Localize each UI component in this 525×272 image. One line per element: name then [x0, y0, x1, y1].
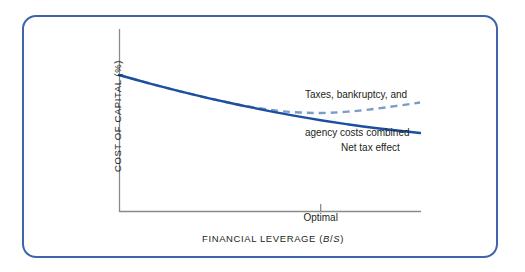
net-tax-effect-annotation: Net tax effect: [341, 142, 400, 153]
chart-figure: COST OF CAPITAL (%) FINANCIAL LEVERAGE (…: [0, 0, 525, 272]
x-axis-title: FINANCIAL LEVERAGE (B/S): [183, 233, 363, 244]
y-axis-title: COST OF CAPITAL (%): [112, 41, 123, 191]
optimal-tick-label: Optimal: [281, 212, 361, 223]
x-axis-title-prefix: FINANCIAL LEVERAGE (: [202, 233, 323, 244]
combined-costs-annotation-line-2: agency costs combined: [305, 127, 410, 140]
combined-costs-annotation-line-1: Taxes, bankruptcy, and: [305, 89, 410, 102]
x-axis-title-b: B: [323, 233, 330, 244]
series-net-tax-effect-layer: [0, 0, 525, 272]
plot-area: COST OF CAPITAL (%) FINANCIAL LEVERAGE (…: [0, 0, 525, 272]
x-axis-title-suffix: ): [340, 233, 344, 244]
